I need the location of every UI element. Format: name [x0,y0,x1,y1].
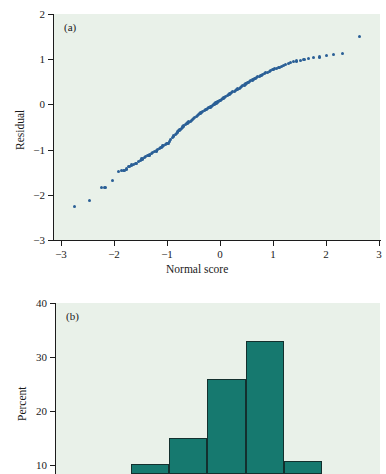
scatter-point [312,56,315,59]
panel-a-xtick-5 [326,241,327,246]
scatter-point [318,55,321,58]
histogram-bar [131,464,169,474]
panel-a-xticklabel-1: −2 [99,249,129,260]
panel-a-xticklabel-0: −3 [46,249,76,260]
panel-a-ytick-5 [48,240,53,241]
panel-b-tag: (b) [66,310,79,322]
scatter-point [103,186,106,189]
panel-a-yticklabel-1: 1 [20,54,45,65]
panel-b-ytick-3 [50,465,55,466]
panel-b-yticklabel-1: 30 [20,352,47,363]
panel-b-plot-area [56,303,380,474]
scatter-point [302,58,305,61]
histogram-bar [284,461,322,474]
panel-a-xtick-4 [273,241,274,246]
scatter-point [88,199,91,202]
histogram-bar [207,379,245,474]
panel-a-yticklabel-0: 2 [20,9,45,20]
panel-a-ytick-3 [48,150,53,151]
panel-b-ylabel: Percent [16,387,28,421]
panel-b-y-axis [55,303,56,474]
panel-a-xticklabel-5: 2 [311,249,341,260]
panel-a-xtick-1 [114,241,115,246]
scatter-point [295,59,298,62]
panel-a-yticklabel-2: 0 [20,99,45,110]
panel-a-xtick-2 [167,241,168,246]
panel-a-ytick-4 [48,195,53,196]
histogram-bar [246,341,284,474]
scatter-point [325,54,328,57]
scatter-point [73,205,76,208]
panel-a-y-axis [53,14,54,241]
scatter-point [111,179,114,182]
panel-a-xticklabel-2: −1 [152,249,182,260]
panel-a-ytick-0 [48,14,53,15]
panel-a-xticklabel-4: 1 [258,249,288,260]
scatter-point [307,57,310,60]
scatter-point [341,52,344,55]
panel-a-xticklabel-3: 0 [205,249,235,260]
panel-a-ytick-1 [48,59,53,60]
panel-b-ytick-0 [50,303,55,304]
panel-a: 2 1 0 −1 −2 −3 −3 −2 −1 0 1 2 3 Residual… [0,0,386,280]
scatter-point [358,35,361,38]
panel-a-yticklabel-5: −3 [16,235,45,246]
panel-a-plot-area [54,14,380,240]
panel-b-ytick-2 [50,411,55,412]
histogram-bar [169,438,207,474]
scatter-point [299,59,302,62]
scatter-point [332,53,335,56]
panel-a-x-axis [53,240,381,241]
figure-panel-group: 2 1 0 −1 −2 −3 −3 −2 −1 0 1 2 3 Residual… [0,0,386,474]
panel-a-tag: (a) [64,21,76,33]
panel-a-xtick-3 [220,241,221,246]
panel-a-ylabel: Residual [14,110,26,150]
panel-b: 40 30 20 10 Percent (b) [0,280,386,474]
panel-a-xtick-6 [379,241,380,246]
panel-a-xticklabel-6: 3 [364,249,386,260]
panel-b-yticklabel-3: 10 [20,460,47,471]
panel-a-ytick-2 [48,104,53,105]
panel-a-yticklabel-4: −2 [16,190,45,201]
panel-a-xlabel: Normal score [166,263,228,275]
panel-a-xtick-0 [61,241,62,246]
panel-b-yticklabel-0: 40 [20,298,47,309]
panel-b-ytick-1 [50,357,55,358]
